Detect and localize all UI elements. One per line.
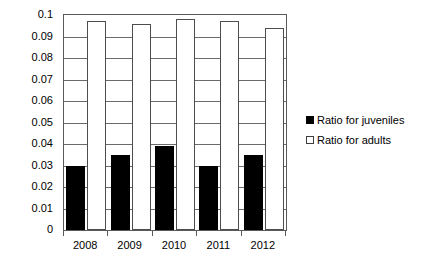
legend-item-juveniles: Ratio for juveniles: [306, 110, 418, 130]
x-axis-tick: [107, 231, 108, 236]
y-axis-tick-label: 0.06: [0, 95, 58, 106]
bar-juveniles-2010: [155, 146, 174, 230]
x-axis: 20082009201020112012: [63, 239, 287, 255]
x-axis-tick-label: 2010: [162, 239, 186, 252]
y-axis: 00.010.020.030.040.050.060.070.080.090.1: [0, 0, 58, 261]
legend-swatch-hollow-square-icon: [306, 136, 314, 144]
y-axis-tick-label: 0: [0, 224, 58, 235]
y-axis-tick-label: 0.09: [0, 31, 58, 42]
y-axis-tick-label: 0.1: [0, 9, 58, 20]
x-axis-tick: [285, 231, 286, 236]
bar-adults-2012: [265, 28, 284, 230]
legend-label-adults: Ratio for adults: [317, 134, 391, 146]
x-axis-tick: [63, 231, 64, 236]
x-axis-tick: [152, 231, 153, 236]
x-axis-tick-label: 2012: [251, 239, 275, 252]
bar-adults-2010: [176, 19, 195, 230]
bar-adults-2008: [87, 21, 106, 230]
y-axis-tick-label: 0.04: [0, 138, 58, 149]
x-axis-ticks: [63, 231, 287, 237]
bar-juveniles-2011: [199, 166, 218, 231]
bar-chart: 00.010.020.030.040.050.060.070.080.090.1…: [0, 0, 421, 261]
x-axis-tick: [241, 231, 242, 236]
x-axis-tick-label: 2009: [117, 239, 141, 252]
bar-juveniles-2008: [66, 166, 85, 231]
y-axis-tick-label: 0.08: [0, 52, 58, 63]
bar-adults-2011: [220, 21, 239, 230]
y-axis-tick-label: 0.02: [0, 181, 58, 192]
y-axis-tick-label: 0.03: [0, 160, 58, 171]
plot-area: [63, 14, 287, 231]
legend-item-adults: Ratio for adults: [306, 130, 418, 150]
bar-juveniles-2012: [244, 155, 263, 230]
legend-label-juveniles: Ratio for juveniles: [317, 114, 404, 126]
bar-adults-2009: [132, 24, 151, 230]
chart-legend: Ratio for juveniles Ratio for adults: [306, 110, 418, 150]
legend-swatch-filled-square-icon: [306, 116, 314, 124]
y-axis-tick-label: 0.01: [0, 203, 58, 214]
y-axis-tick-label: 0.05: [0, 117, 58, 128]
x-axis-tick: [196, 231, 197, 236]
bars-layer: [64, 15, 286, 230]
x-axis-tick-label: 2008: [73, 239, 97, 252]
bar-juveniles-2009: [111, 155, 130, 230]
y-axis-tick-label: 0.07: [0, 74, 58, 85]
x-axis-tick-label: 2011: [207, 239, 231, 252]
